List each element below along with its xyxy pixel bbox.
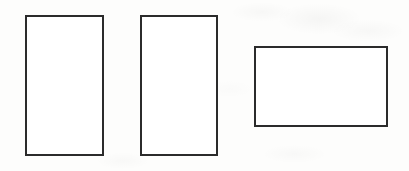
figure-canvas [0,0,409,171]
rectangle-3 [254,46,388,127]
rectangle-2 [140,15,218,156]
rectangle-1 [25,15,104,156]
